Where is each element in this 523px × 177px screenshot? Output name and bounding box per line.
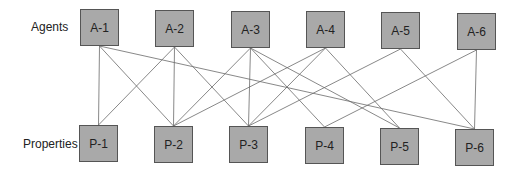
edge-a-2-p-2 — [174, 47, 175, 126]
property-node-p-5: P-5 — [380, 128, 419, 165]
edge-a-5-p-6 — [401, 49, 475, 129]
property-node-p-1: P-1 — [79, 125, 118, 162]
properties-row-label: Properties — [23, 137, 78, 151]
edge-a-4-p-5 — [326, 48, 400, 128]
edge-a-2-p-1 — [99, 47, 175, 125]
edge-a-5-p-3 — [249, 49, 401, 126]
edge-a-1-p-1 — [99, 46, 100, 125]
property-node-p-2: P-2 — [154, 126, 193, 163]
edge-a-4-p-3 — [249, 48, 326, 126]
property-node-p-3: P-3 — [229, 126, 268, 163]
agent-node-a-6: A-6 — [457, 13, 496, 50]
edge-a-3-p-5 — [251, 48, 400, 128]
edge-a-6-p-6 — [475, 50, 477, 129]
edge-a-3-p-2 — [174, 48, 251, 126]
agents-row-label: Agents — [31, 20, 68, 34]
property-node-p-6: P-6 — [455, 129, 494, 166]
agent-node-a-5: A-5 — [381, 12, 420, 49]
bipartite-diagram: Agents Properties A-1A-2A-3A-4A-5A-6 P-1… — [0, 0, 523, 177]
agent-node-a-1: A-1 — [80, 9, 119, 46]
edge-a-6-p-4 — [325, 50, 477, 127]
agent-node-a-3: A-3 — [231, 11, 270, 48]
agent-node-a-4: A-4 — [306, 11, 345, 48]
property-node-p-4: P-4 — [305, 127, 344, 164]
edge-a-4-p-2 — [174, 48, 326, 126]
agent-node-a-2: A-2 — [155, 10, 194, 47]
